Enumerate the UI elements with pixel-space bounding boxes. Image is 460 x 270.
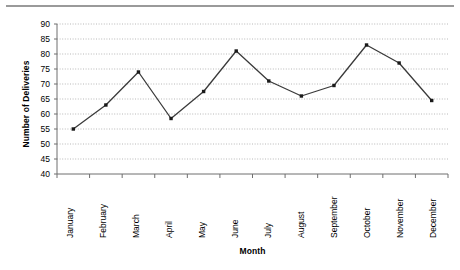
- data-point-marker: [365, 43, 368, 46]
- series-markers: [72, 43, 434, 130]
- data-point-marker: [267, 79, 270, 82]
- data-point-marker: [300, 94, 303, 97]
- data-point-marker: [430, 99, 433, 102]
- data-point-marker: [397, 61, 400, 64]
- line-chart: Number of Deliveries Month 90 85 80 75 7…: [0, 0, 460, 270]
- series-line: [73, 45, 431, 129]
- plot-canvas: [0, 0, 460, 270]
- chart-page: Number of Deliveries Month 90 85 80 75 7…: [0, 0, 460, 270]
- data-point-marker: [235, 49, 238, 52]
- data-point-marker: [332, 84, 335, 87]
- data-point-marker: [72, 127, 75, 130]
- data-point-marker: [169, 117, 172, 120]
- data-point-marker: [137, 70, 140, 73]
- x-tick-marks: [57, 174, 448, 178]
- gridlines: [57, 24, 448, 159]
- data-point-marker: [104, 103, 107, 106]
- data-point-marker: [202, 90, 205, 93]
